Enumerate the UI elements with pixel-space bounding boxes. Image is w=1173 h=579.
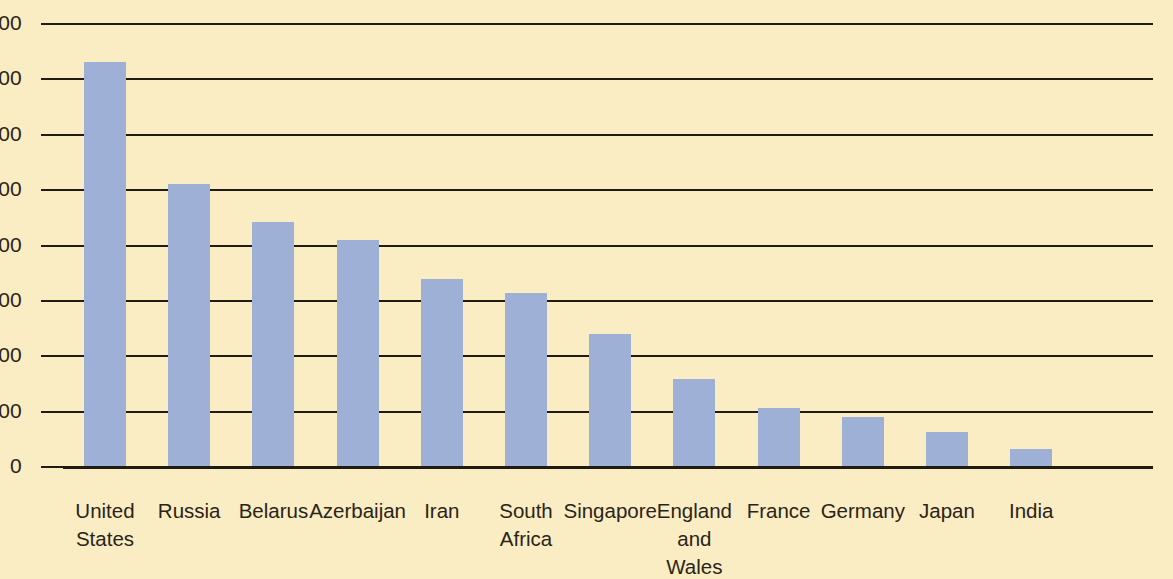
y-axis-tick xyxy=(41,189,63,191)
plot-area: 0100200300400500600700800 United StatesR… xyxy=(63,23,1153,466)
x-axis-line xyxy=(63,466,1153,469)
y-axis-tick-label: 600 xyxy=(0,122,22,146)
y-axis-tick-label: 800 xyxy=(0,11,22,35)
y-axis-tick xyxy=(41,411,63,413)
x-axis-labels-group: United StatesRussiaBelarusAzerbaijanIran… xyxy=(63,23,1153,466)
y-axis-tick xyxy=(41,23,63,25)
y-axis-tick-label: 400 xyxy=(0,233,22,257)
y-axis-tick xyxy=(41,300,63,302)
y-axis-tick xyxy=(41,78,63,80)
x-axis-category-label: India xyxy=(971,497,1091,525)
y-axis-tick xyxy=(41,245,63,247)
y-axis-tick-label: 200 xyxy=(0,343,22,367)
y-axis-tick-label: 700 xyxy=(0,66,22,90)
y-axis-tick xyxy=(41,355,63,357)
y-axis-tick-label: 300 xyxy=(0,288,22,312)
y-axis-tick-label: 100 xyxy=(0,399,22,423)
y-axis-tick xyxy=(41,466,63,468)
bar-chart: 0100200300400500600700800 United StatesR… xyxy=(0,0,1173,579)
y-axis-tick-label: 0 xyxy=(0,454,22,478)
y-axis-tick xyxy=(41,134,63,136)
y-axis-tick-label: 500 xyxy=(0,177,22,201)
